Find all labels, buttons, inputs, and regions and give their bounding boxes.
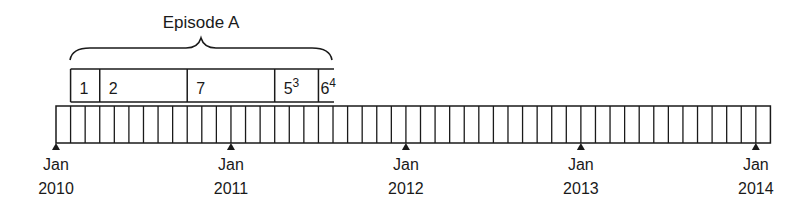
episode-brace bbox=[70, 38, 332, 60]
tick-label-year: 2012 bbox=[388, 180, 424, 197]
tick-label-year: 2014 bbox=[738, 180, 774, 197]
timeline-diagram: Episode A 1275364 Jan2010Jan2011Jan2012J… bbox=[0, 0, 801, 210]
tick-label-month: Jan bbox=[743, 156, 769, 173]
tick-label-month: Jan bbox=[568, 156, 594, 173]
segment-label: 53 bbox=[284, 76, 300, 97]
tick-marker-icon bbox=[752, 143, 760, 150]
segment-superscript: 3 bbox=[293, 76, 300, 90]
segment-label: 7 bbox=[196, 80, 205, 97]
tick-label-month: Jan bbox=[218, 156, 244, 173]
segment-superscript: 4 bbox=[329, 76, 336, 90]
month-bar-frame bbox=[56, 106, 770, 143]
tick-label-month: Jan bbox=[43, 156, 69, 173]
tick-label-year: 2011 bbox=[214, 180, 249, 197]
tick-label-month: Jan bbox=[393, 156, 419, 173]
tick-label-year: 2013 bbox=[563, 180, 599, 197]
segment-label: 1 bbox=[80, 80, 89, 97]
tick-label-year: 2010 bbox=[38, 180, 74, 197]
month-bar bbox=[56, 106, 770, 143]
tick-marker-icon bbox=[577, 143, 585, 150]
year-ticks: Jan2010Jan2011Jan2012Jan2013Jan2014 bbox=[38, 143, 774, 197]
segment-label: 2 bbox=[109, 80, 118, 97]
episode-title: Episode A bbox=[163, 13, 240, 32]
episode-segments: 1275364 bbox=[71, 69, 337, 102]
tick-marker-icon bbox=[402, 143, 410, 150]
tick-marker-icon bbox=[227, 143, 235, 150]
segment-label: 64 bbox=[320, 76, 336, 97]
tick-marker-icon bbox=[52, 143, 60, 150]
